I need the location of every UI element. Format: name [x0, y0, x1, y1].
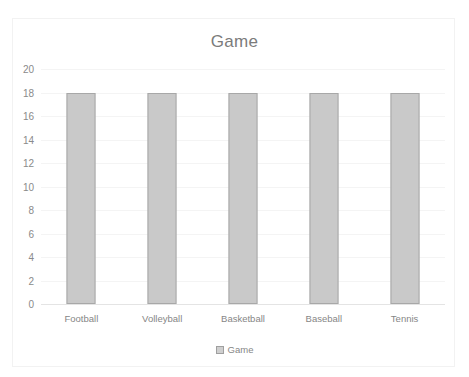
x-axis-tick-football: Football — [64, 313, 98, 324]
y-axis-tick-20: 20 — [23, 64, 34, 75]
bar-basketball[interactable] — [228, 93, 257, 305]
y-axis-tick-2: 2 — [28, 275, 34, 286]
bar-group: Tennis — [364, 69, 445, 304]
x-axis-tick-volleyball: Volleyball — [142, 313, 182, 324]
chart-container: Game 20181614121086420 FootballVolleybal… — [12, 18, 455, 367]
bar-group: Volleyball — [122, 69, 203, 304]
bar-baseball[interactable] — [309, 93, 338, 305]
y-axis-tick-8: 8 — [28, 205, 34, 216]
y-axis-tick-0: 0 — [28, 299, 34, 310]
plot-area: 20181614121086420 FootballVolleyballBask… — [41, 69, 445, 304]
legend-label-game: Game — [228, 344, 254, 355]
x-axis-tick-tennis: Tennis — [391, 313, 418, 324]
x-axis-tick-baseball: Baseball — [306, 313, 342, 324]
y-axis-tick-12: 12 — [23, 158, 34, 169]
bar-group: Football — [41, 69, 122, 304]
chart-title: Game — [13, 32, 456, 52]
y-axis-tick-14: 14 — [23, 134, 34, 145]
x-axis-tick-basketball: Basketball — [221, 313, 265, 324]
bar-football[interactable] — [67, 93, 96, 305]
chart-legend: Game — [13, 344, 456, 355]
y-axis-tick-18: 18 — [23, 87, 34, 98]
gridline-0: 0 — [41, 304, 445, 305]
y-axis-tick-16: 16 — [23, 111, 34, 122]
bar-tennis[interactable] — [390, 93, 419, 305]
y-axis-tick-4: 4 — [28, 252, 34, 263]
bar-series-game: FootballVolleyballBasketballBaseballTenn… — [41, 69, 445, 304]
y-axis-tick-10: 10 — [23, 181, 34, 192]
legend-swatch-icon — [216, 346, 224, 354]
y-axis-tick-6: 6 — [28, 228, 34, 239]
bar-group: Basketball — [203, 69, 284, 304]
bar-volleyball[interactable] — [148, 93, 177, 305]
bar-group: Baseball — [283, 69, 364, 304]
